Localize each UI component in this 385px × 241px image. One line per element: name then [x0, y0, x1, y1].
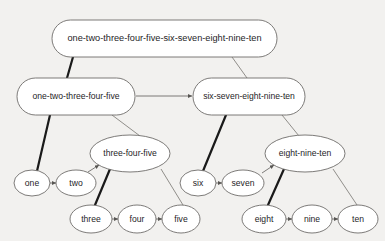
node-label-tfv: three-four-five: [103, 148, 157, 158]
edge-root-to-left5: [67, 57, 73, 78]
node-label-five: five: [174, 214, 188, 224]
edge-ent-to-ten: [333, 169, 357, 205]
node-layer: one-two-three-four-five-six-seven-eight-…: [14, 20, 378, 233]
edge-ent-to-eight: [268, 169, 284, 205]
node-tfv[interactable]: three-four-five: [90, 135, 170, 172]
node-seven[interactable]: seven: [222, 170, 264, 196]
edge-seven-to-ent: [262, 165, 274, 173]
node-label-four: four: [130, 214, 145, 224]
node-label-root: one-two-three-four-five-six-seven-eight-…: [67, 33, 261, 43]
node-one[interactable]: one: [14, 170, 50, 196]
node-label-three: three: [81, 214, 101, 224]
edge-two-to-tfv: [88, 165, 99, 172]
node-nine[interactable]: nine: [292, 205, 332, 233]
node-label-six: six: [193, 178, 204, 188]
diagram-svg: one-two-three-four-five-six-seven-eight-…: [0, 0, 385, 241]
node-right5[interactable]: six-seven-eight-nine-ten: [193, 78, 305, 115]
node-label-one: one: [25, 178, 40, 188]
node-left5[interactable]: one-two-three-four-five: [17, 78, 135, 115]
node-label-two: two: [69, 178, 83, 188]
node-root[interactable]: one-two-three-four-five-six-seven-eight-…: [52, 20, 277, 57]
node-label-eight: eight: [255, 214, 274, 224]
node-label-right5: six-seven-eight-nine-ten: [203, 91, 295, 101]
node-ent[interactable]: eight-nine-ten: [265, 135, 345, 172]
edge-right5-to-six: [203, 115, 226, 171]
node-six[interactable]: six: [180, 170, 216, 196]
node-four[interactable]: four: [118, 205, 156, 233]
node-ten[interactable]: ten: [338, 205, 378, 233]
edge-tfv-to-three: [95, 169, 110, 205]
edge-left5-to-tfv: [112, 115, 140, 136]
node-three[interactable]: three: [70, 205, 112, 233]
node-label-seven: seven: [232, 178, 255, 188]
node-five[interactable]: five: [162, 205, 200, 233]
edge-right5-to-ent: [282, 115, 299, 136]
node-two[interactable]: two: [56, 170, 96, 196]
edge-tfv-to-five: [161, 169, 183, 205]
node-label-ten: ten: [352, 214, 364, 224]
edge-left5-to-one: [37, 115, 50, 171]
node-eight[interactable]: eight: [242, 205, 286, 233]
node-label-nine: nine: [304, 214, 320, 224]
edge-root-to-right5: [232, 57, 247, 78]
node-label-left5: one-two-three-four-five: [33, 91, 120, 101]
diagram-canvas: one-two-three-four-five-six-seven-eight-…: [0, 0, 385, 241]
node-label-ent: eight-nine-ten: [279, 148, 332, 158]
